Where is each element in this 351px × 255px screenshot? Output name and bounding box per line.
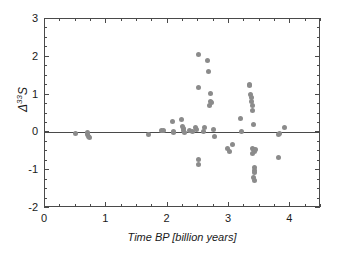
data-point bbox=[208, 91, 213, 96]
data-point bbox=[202, 125, 207, 130]
data-point bbox=[250, 151, 255, 156]
x-axis-tick bbox=[151, 18, 152, 21]
y-axis-tick bbox=[44, 188, 47, 189]
data-point bbox=[252, 170, 257, 175]
x-axis-tick bbox=[197, 18, 198, 21]
y-axis-tick bbox=[44, 113, 47, 114]
x-axis-tick bbox=[259, 18, 260, 21]
y-axis-tick bbox=[315, 169, 320, 170]
y-axis-tick bbox=[44, 94, 49, 95]
data-point bbox=[276, 155, 281, 160]
data-point bbox=[230, 142, 235, 147]
x-axis-tick bbox=[320, 204, 321, 207]
x-tick-label: 0 bbox=[41, 212, 47, 224]
y-axis-tick bbox=[317, 103, 320, 104]
y-axis-tick bbox=[317, 122, 320, 123]
data-points-layer bbox=[45, 19, 319, 206]
x-tick-label: 4 bbox=[286, 212, 292, 224]
x-axis-tick bbox=[274, 18, 275, 21]
y-axis-tick bbox=[315, 131, 320, 132]
data-point bbox=[250, 103, 255, 108]
x-axis-tick bbox=[136, 18, 137, 21]
scatter-chart-figure: 01234-2-10123 Time BP [billion years] Δ3… bbox=[0, 0, 351, 255]
data-point bbox=[170, 119, 175, 124]
data-point bbox=[206, 69, 211, 74]
x-axis-tick bbox=[90, 18, 91, 21]
y-axis-tick bbox=[317, 150, 320, 151]
plot-area bbox=[44, 18, 320, 207]
x-axis-tick bbox=[228, 202, 229, 207]
x-tick-label: 2 bbox=[164, 212, 170, 224]
x-axis-tick bbox=[259, 204, 260, 207]
y-axis-title-superscript: 33 bbox=[15, 95, 24, 104]
y-axis-tick bbox=[44, 65, 47, 66]
x-axis-tick bbox=[305, 18, 306, 21]
data-point bbox=[212, 134, 217, 139]
data-point bbox=[238, 116, 243, 121]
x-axis-tick bbox=[136, 204, 137, 207]
y-axis-tick bbox=[44, 27, 47, 28]
x-axis-tick bbox=[320, 18, 321, 21]
data-point bbox=[196, 85, 201, 90]
y-axis-tick bbox=[317, 160, 320, 161]
x-axis-tick bbox=[167, 202, 168, 207]
y-axis-tick bbox=[317, 188, 320, 189]
x-axis-tick bbox=[289, 202, 290, 207]
x-axis-tick bbox=[75, 204, 76, 207]
y-axis-tick bbox=[44, 56, 49, 57]
y-axis-tick bbox=[44, 179, 47, 180]
x-axis-title: Time BP [billion years] bbox=[44, 231, 320, 243]
x-axis-tick bbox=[289, 18, 290, 23]
y-axis-tick bbox=[44, 141, 47, 142]
y-axis-tick bbox=[317, 37, 320, 38]
data-point bbox=[247, 83, 252, 88]
data-point bbox=[253, 147, 258, 152]
y-axis-tick bbox=[317, 141, 320, 142]
x-axis-tick bbox=[182, 18, 183, 21]
x-tick-label: 3 bbox=[225, 212, 231, 224]
y-axis-tick bbox=[44, 169, 49, 170]
x-axis-tick bbox=[167, 18, 168, 23]
data-point bbox=[205, 58, 210, 63]
x-axis-tick bbox=[197, 204, 198, 207]
y-tick-label: 2 bbox=[10, 50, 38, 62]
data-point bbox=[227, 149, 232, 154]
y-axis-tick bbox=[317, 113, 320, 114]
y-tick-label: -1 bbox=[10, 163, 38, 175]
x-axis-tick bbox=[182, 204, 183, 207]
y-axis-tick bbox=[44, 160, 47, 161]
y-axis-tick bbox=[44, 37, 47, 38]
y-axis-tick bbox=[44, 198, 47, 199]
y-axis-tick bbox=[44, 122, 47, 123]
y-axis-tick bbox=[44, 150, 47, 151]
y-axis-tick bbox=[44, 84, 47, 85]
data-point bbox=[239, 129, 244, 134]
y-axis-tick bbox=[315, 56, 320, 57]
data-point bbox=[161, 128, 166, 133]
y-axis-tick bbox=[44, 131, 49, 132]
y-axis-tick bbox=[44, 75, 47, 76]
y-axis-tick bbox=[317, 27, 320, 28]
x-axis-tick bbox=[121, 204, 122, 207]
data-point bbox=[87, 135, 92, 140]
data-point bbox=[251, 122, 256, 127]
x-axis-tick bbox=[228, 18, 229, 23]
x-axis-tick bbox=[105, 18, 106, 23]
x-axis-tick bbox=[59, 204, 60, 207]
y-tick-label: 3 bbox=[10, 12, 38, 24]
data-point bbox=[277, 131, 282, 136]
y-axis-tick bbox=[44, 46, 47, 47]
data-point bbox=[252, 178, 257, 183]
data-point bbox=[179, 117, 184, 122]
y-axis-tick bbox=[315, 207, 320, 208]
x-axis-tick bbox=[90, 204, 91, 207]
y-axis-tick bbox=[44, 18, 49, 19]
x-axis-tick bbox=[213, 204, 214, 207]
x-axis-tick bbox=[213, 18, 214, 21]
y-axis-tick bbox=[317, 65, 320, 66]
x-axis-tick bbox=[305, 204, 306, 207]
x-axis-tick bbox=[274, 204, 275, 207]
y-axis-tick bbox=[317, 179, 320, 180]
data-point bbox=[250, 108, 255, 113]
y-axis-title-element: S bbox=[16, 87, 30, 95]
